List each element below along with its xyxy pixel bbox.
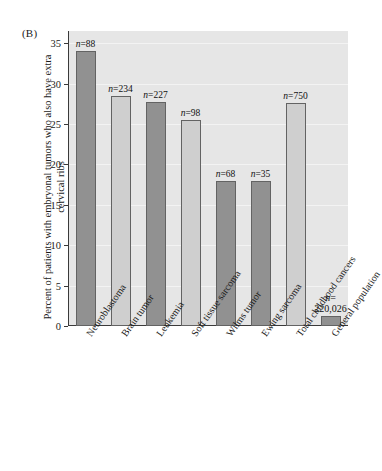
y-tick-label: 10 [51,240,62,251]
y-tick-label: 5 [56,280,61,291]
y-tick-group: 0 [68,326,69,327]
bar-n-label: n=88 [76,39,96,50]
bar-n-label: n=750 [283,91,307,102]
bar [181,120,201,326]
y-axis-title-text: Percent of patients with embryonal tumor… [41,49,67,325]
bar-column: n=98 [181,31,201,326]
bar-column: n=35 [251,31,271,326]
y-tick-label: 25 [51,118,62,129]
x-axis-category-labels: NeuroblastomaBrain tumorLeukemiaSoft tis… [68,330,368,465]
bar-column: n=227 [146,31,166,326]
plot-area: 05101520253035 n=88n=234n=227n=98n=68n=3… [68,31,348,326]
y-tick-mark [64,326,68,327]
bar-series: n=88n=234n=227n=98n=68n=35n=750n=220,026 [68,31,348,326]
bar-column: n=88 [76,31,96,326]
y-tick-label: 0 [56,321,61,332]
bar-n-label: n=98 [181,108,201,119]
y-tick-label: 35 [51,38,62,49]
y-tick-label: 30 [51,78,62,89]
bar [76,51,96,326]
bar-n-label: n=227 [143,90,167,101]
bar-n-label: n=68 [216,169,236,180]
bar-n-label: n=234 [108,84,132,95]
y-tick-label: 15 [51,199,62,210]
bar-n-label: n=35 [251,169,271,180]
panel-label: (B) [22,27,37,39]
y-tick-label: 20 [51,159,62,170]
bar-column: n=234 [111,31,131,326]
